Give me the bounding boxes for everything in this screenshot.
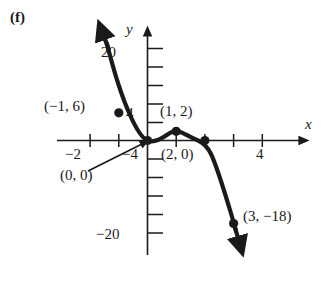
point-marker-1-2 — [172, 127, 181, 136]
y-tick-label-neg20: −20 — [96, 227, 119, 242]
point-marker-2-0 — [200, 136, 209, 145]
x-tick-label-4: 4 — [256, 147, 264, 162]
point-label-2-0: (2, 0) — [161, 147, 194, 162]
y-axis-label: y — [126, 22, 133, 37]
y-tick-label-4: 4 — [126, 106, 134, 121]
point-marker-3-neg18 — [229, 219, 238, 228]
point-label-1-2: (1, 2) — [160, 104, 193, 119]
point-marker-origin — [143, 136, 152, 145]
curve-path — [107, 44, 236, 232]
point-marker-neg1-6 — [114, 108, 123, 117]
point-label-3-neg18: (3, −18) — [243, 209, 291, 224]
point-label-neg1-6: (−1, 6) — [44, 99, 85, 114]
x-tick-label-neg2: −2 — [65, 147, 81, 162]
y-tick-label-neg4: −4 — [122, 147, 138, 162]
y-tick-label-20: 20 — [101, 45, 116, 60]
graph-canvas — [0, 0, 336, 284]
x-axis-label: x — [305, 117, 312, 132]
point-label-origin: (0, 0) — [60, 168, 93, 183]
figure-panel: (f) — [0, 0, 336, 284]
